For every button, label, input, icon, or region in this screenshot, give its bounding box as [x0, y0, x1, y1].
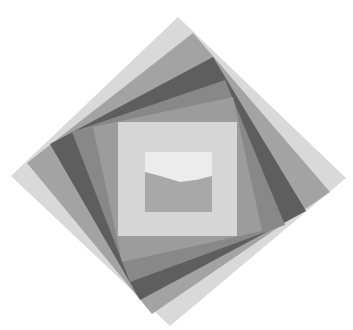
- image-placeholder-icon: [145, 152, 212, 212]
- nested-squares-logo: [0, 0, 353, 330]
